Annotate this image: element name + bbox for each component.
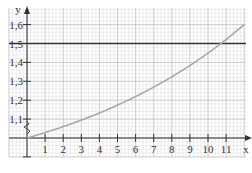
y-tick-label: 1,5 xyxy=(9,38,23,50)
x-tick-label: 10 xyxy=(203,143,215,155)
x-tick-label: 5 xyxy=(115,143,121,155)
y-tick-label: 1,1 xyxy=(9,113,23,125)
x-tick-label: 2 xyxy=(60,143,66,155)
x-tick-label: 8 xyxy=(169,143,175,155)
x-tick-label: 1 xyxy=(42,143,48,155)
x-tick-label: 9 xyxy=(187,143,193,155)
x-axis-arrow-icon xyxy=(245,135,252,141)
x-tick-label: 6 xyxy=(133,143,139,155)
x-tick-label: 7 xyxy=(151,143,157,155)
grid xyxy=(9,8,246,157)
y-tick-label: 1,6 xyxy=(9,19,23,31)
x-axis-label: x xyxy=(243,143,249,155)
x-tick-label: 4 xyxy=(97,143,103,155)
y-tick-label: 1,4 xyxy=(9,56,23,68)
y-tick-label: 1,2 xyxy=(9,94,23,106)
y-axis-arrow-icon xyxy=(24,6,30,14)
y-axis-label: y xyxy=(15,3,21,15)
x-tick-label: 11 xyxy=(221,143,232,155)
x-tick-label: 3 xyxy=(79,143,85,155)
chart: 12345678910111,11,21,31,41,51,6xy xyxy=(0,0,252,173)
y-tick-label: 1,3 xyxy=(9,75,23,87)
